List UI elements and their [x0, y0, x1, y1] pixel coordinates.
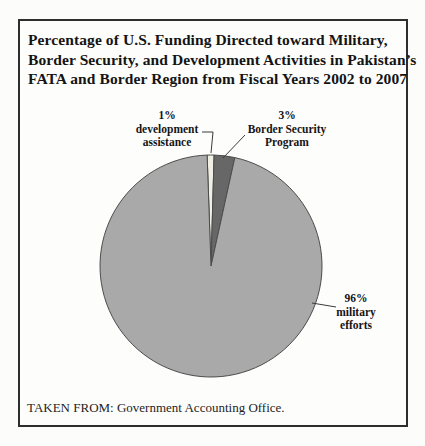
- callout-border-security-label-2: Program: [227, 136, 347, 150]
- callout-development-assistance: 1% development assistance: [107, 109, 227, 150]
- source-note: TAKEN FROM: Government Accounting Office…: [27, 400, 285, 416]
- callout-border-security-label-1: Border Security: [227, 123, 347, 137]
- callout-border-security-program: 3% Border Security Program: [227, 109, 347, 150]
- callout-military-label-1: military: [301, 306, 411, 320]
- pie-slices-group: [100, 155, 322, 377]
- pie-chart: [0, 0, 425, 446]
- callout-military-pct: 96%: [301, 292, 411, 306]
- figure-page: Percentage of U.S. Funding Directed towa…: [0, 0, 425, 446]
- callout-development-label-2: assistance: [107, 136, 227, 150]
- callout-development-label-1: development: [107, 123, 227, 137]
- callout-military-efforts: 96% military efforts: [301, 292, 411, 333]
- callout-development-pct: 1%: [107, 109, 227, 123]
- callout-military-label-2: efforts: [301, 319, 411, 333]
- callout-border-security-pct: 3%: [227, 109, 347, 123]
